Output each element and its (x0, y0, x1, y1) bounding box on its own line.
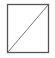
empty-slash-box-icon (0, 0, 55, 58)
diagonal-slash (8, 5, 48, 52)
